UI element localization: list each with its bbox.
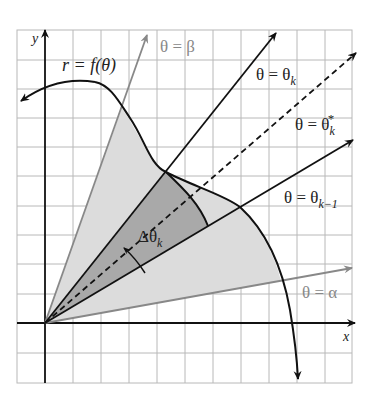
- ray-beta-label: θ = β: [160, 38, 195, 55]
- ray-alpha-label: θ = α: [302, 284, 337, 301]
- x-axis-label: x: [343, 330, 349, 344]
- ray-theta-k-star-label: θ = θk*: [295, 116, 334, 133]
- ray-theta-k-minus-1-label: θ = θk−1: [284, 189, 338, 206]
- delta-theta-label: Δθk: [138, 228, 162, 245]
- y-axis-label: y: [32, 32, 38, 46]
- curve-r-f-theta: [21, 81, 95, 101]
- ray-theta-k-label: θ = θk: [256, 66, 296, 83]
- curve-label: r = f(θ): [62, 56, 116, 74]
